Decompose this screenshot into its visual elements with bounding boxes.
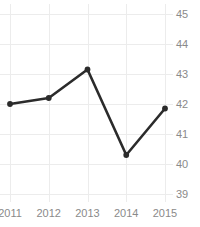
data-point-marker (162, 106, 168, 112)
x-axis-tick-label: 2012 (29, 208, 69, 219)
data-point-marker (7, 101, 13, 107)
data-point-marker (46, 95, 52, 101)
x-axis-tick-label: 2011 (0, 208, 30, 219)
x-axis-tick-label: 2014 (106, 208, 146, 219)
y-axis-tick-label: 42 (176, 99, 200, 110)
plot-area (0, 0, 200, 227)
horizontal-gridlines (0, 15, 173, 195)
data-point-marker (85, 67, 91, 73)
y-axis-tick-label: 45 (176, 9, 200, 20)
chart-container: Freedom Trend 39404142434445 20112012201… (0, 0, 200, 227)
y-axis-tick-label: 41 (176, 129, 200, 140)
line-series-freedom-trend (10, 70, 165, 156)
data-point-markers (7, 67, 168, 158)
data-point-marker (123, 152, 129, 158)
x-axis-tick-label: 2013 (68, 208, 108, 219)
y-axis-tick-label: 43 (176, 69, 200, 80)
y-axis-tick-label: 44 (176, 39, 200, 50)
y-axis-tick-label: 40 (176, 159, 200, 170)
x-axis-tick-label: 2015 (145, 208, 185, 219)
vertical-gridlines (11, 4, 166, 202)
y-axis-tick-label: 39 (176, 189, 200, 200)
